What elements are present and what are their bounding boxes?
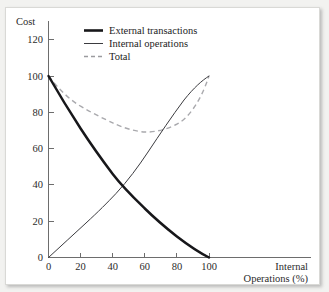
figure-container: 0 20 40 60 80 100 120 Cost 0 20 bbox=[0, 0, 329, 292]
x-axis-ticks bbox=[49, 253, 210, 258]
x-ticklabel-80: 80 bbox=[172, 261, 183, 272]
legend-label-internal-operations: Internal operations bbox=[109, 38, 188, 49]
x-ticklabel-0: 0 bbox=[46, 261, 51, 272]
chart-legend: External transactions Internal operation… bbox=[84, 25, 197, 62]
y-ticklabel-20: 20 bbox=[33, 216, 44, 227]
x-ticklabel-20: 20 bbox=[75, 261, 86, 272]
legend-item-total: Total bbox=[84, 51, 131, 62]
x-ticklabel-40: 40 bbox=[107, 261, 118, 272]
x-axis-title-line1: Internal bbox=[275, 261, 308, 272]
y-ticklabel-80: 80 bbox=[33, 107, 44, 118]
series-line-external-transactions bbox=[49, 76, 210, 258]
y-ticklabel-40: 40 bbox=[33, 179, 44, 190]
x-axis-title: Internal Operations (%) bbox=[244, 261, 309, 284]
y-ticklabel-0: 0 bbox=[38, 252, 43, 263]
y-ticklabel-60: 60 bbox=[33, 143, 44, 154]
cost-tradeoff-chart: 0 20 40 60 80 100 120 Cost 0 20 bbox=[6, 8, 319, 284]
y-axis-tick-labels: 0 20 40 60 80 100 120 bbox=[27, 34, 43, 263]
y-ticklabel-100: 100 bbox=[27, 71, 43, 82]
x-axis-tick-labels: 0 20 40 60 80 100 bbox=[46, 261, 217, 272]
legend-label-external-transactions: External transactions bbox=[109, 25, 197, 36]
x-ticklabel-60: 60 bbox=[140, 261, 151, 272]
legend-item-external-transactions: External transactions bbox=[84, 25, 197, 36]
figure-frame: 0 20 40 60 80 100 120 Cost 0 20 bbox=[5, 7, 320, 285]
x-ticklabel-100: 100 bbox=[201, 261, 217, 272]
legend-item-internal-operations: Internal operations bbox=[84, 38, 188, 49]
series-line-total bbox=[49, 76, 210, 132]
x-axis-title-line2: Operations (%) bbox=[244, 273, 309, 284]
y-axis-ticks bbox=[49, 40, 54, 258]
series-line-internal-operations bbox=[49, 76, 210, 258]
legend-label-total: Total bbox=[109, 51, 131, 62]
y-ticklabel-120: 120 bbox=[27, 34, 43, 45]
y-axis-title: Cost bbox=[16, 16, 35, 27]
